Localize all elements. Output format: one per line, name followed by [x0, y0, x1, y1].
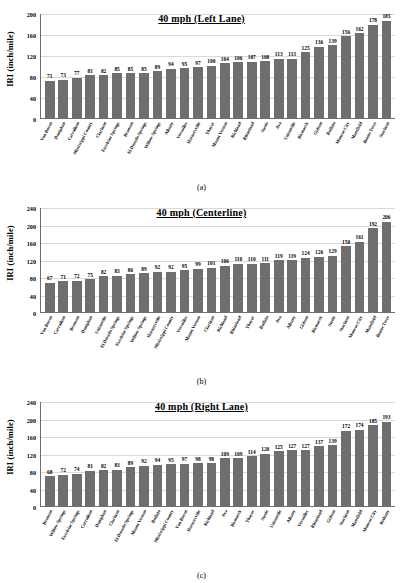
- bar[interactable]: [260, 454, 270, 507]
- bar[interactable]: [314, 47, 324, 118]
- bar[interactable]: [233, 264, 243, 312]
- bar[interactable]: [260, 263, 270, 312]
- bar-item[interactable]: 71: [56, 208, 69, 312]
- bar[interactable]: [287, 260, 297, 312]
- bar[interactable]: [126, 73, 136, 118]
- bar-item[interactable]: 125: [272, 402, 285, 506]
- bar[interactable]: [247, 456, 257, 506]
- bar[interactable]: [126, 274, 136, 312]
- bar-item[interactable]: 94: [164, 14, 177, 118]
- bar-item[interactable]: 156: [339, 14, 352, 118]
- bar-item[interactable]: 178: [366, 14, 379, 118]
- bar-item[interactable]: 137: [312, 402, 325, 506]
- bar-item[interactable]: 172: [339, 402, 352, 506]
- bar[interactable]: [247, 62, 257, 118]
- bar[interactable]: [99, 75, 109, 118]
- bar-item[interactable]: 106: [218, 208, 231, 312]
- bar-item[interactable]: 73: [56, 14, 69, 118]
- bar-item[interactable]: 82: [97, 402, 110, 506]
- bar[interactable]: [112, 73, 122, 118]
- bar[interactable]: [180, 68, 190, 118]
- bar-item[interactable]: 81: [83, 402, 96, 506]
- bar[interactable]: [166, 69, 176, 118]
- bar[interactable]: [112, 276, 122, 312]
- bar[interactable]: [233, 62, 243, 118]
- bar[interactable]: [99, 276, 109, 312]
- bar-item[interactable]: 127: [285, 402, 298, 506]
- bar-item[interactable]: 77: [70, 14, 83, 118]
- bar[interactable]: [85, 471, 95, 506]
- bar-item[interactable]: 95: [164, 402, 177, 506]
- bar[interactable]: [274, 260, 284, 312]
- bar[interactable]: [355, 430, 365, 506]
- bar[interactable]: [301, 450, 311, 506]
- bar-item[interactable]: 71: [43, 14, 56, 118]
- bar-item[interactable]: 98: [205, 402, 218, 506]
- bar[interactable]: [180, 270, 190, 312]
- bar[interactable]: [153, 465, 163, 506]
- bar-item[interactable]: 127: [299, 402, 312, 506]
- bar-item[interactable]: 126: [312, 208, 325, 312]
- bar-item[interactable]: 86: [124, 208, 137, 312]
- bar[interactable]: [72, 474, 82, 506]
- bar[interactable]: [220, 266, 230, 312]
- bar[interactable]: [314, 446, 324, 506]
- bar-item[interactable]: 110: [232, 208, 245, 312]
- bar-item[interactable]: 81: [83, 14, 96, 118]
- bar[interactable]: [301, 52, 311, 118]
- bar-item[interactable]: 72: [56, 402, 69, 506]
- bar[interactable]: [233, 458, 243, 506]
- bar[interactable]: [153, 272, 163, 312]
- bar-item[interactable]: 161: [353, 208, 366, 312]
- bar-item[interactable]: 89: [137, 208, 150, 312]
- bar[interactable]: [58, 80, 68, 118]
- bar[interactable]: [85, 75, 95, 118]
- bar-item[interactable]: 104: [218, 14, 231, 118]
- bar-item[interactable]: 193: [380, 402, 393, 506]
- bar[interactable]: [139, 466, 149, 506]
- bar-item[interactable]: 89: [151, 14, 164, 118]
- bar[interactable]: [166, 272, 176, 312]
- bar-item[interactable]: 97: [191, 14, 204, 118]
- bar-item[interactable]: 139: [326, 402, 339, 506]
- bar-item[interactable]: 82: [97, 14, 110, 118]
- bar[interactable]: [287, 450, 297, 506]
- bar[interactable]: [341, 246, 351, 312]
- bar[interactable]: [274, 59, 284, 118]
- bar-item[interactable]: 162: [353, 14, 366, 118]
- bar[interactable]: [193, 463, 203, 506]
- bar-item[interactable]: 85: [137, 14, 150, 118]
- bar[interactable]: [260, 61, 270, 118]
- bar[interactable]: [45, 476, 55, 506]
- bar[interactable]: [355, 242, 365, 312]
- bar-item[interactable]: 85: [110, 14, 123, 118]
- bar[interactable]: [85, 279, 95, 312]
- bar-item[interactable]: 83: [110, 208, 123, 312]
- bar-item[interactable]: 109: [232, 402, 245, 506]
- bar[interactable]: [368, 228, 378, 312]
- bar[interactable]: [166, 464, 176, 506]
- bar-item[interactable]: 110: [245, 208, 258, 312]
- bar[interactable]: [328, 45, 338, 118]
- bar-item[interactable]: 120: [259, 402, 272, 506]
- bar-item[interactable]: 185: [366, 402, 379, 506]
- bar[interactable]: [58, 281, 68, 312]
- bar-item[interactable]: 129: [326, 208, 339, 312]
- bar-item[interactable]: 99: [191, 208, 204, 312]
- bar-item[interactable]: 82: [97, 208, 110, 312]
- bar[interactable]: [328, 256, 338, 312]
- bar[interactable]: [72, 78, 82, 118]
- bar[interactable]: [301, 258, 311, 312]
- bar[interactable]: [328, 445, 338, 506]
- bar-item[interactable]: 192: [366, 208, 379, 312]
- bar-item[interactable]: 113: [272, 14, 285, 118]
- bar-item[interactable]: 98: [191, 402, 204, 506]
- bar-item[interactable]: 94: [151, 402, 164, 506]
- bar-item[interactable]: 119: [285, 208, 298, 312]
- bar[interactable]: [207, 66, 217, 119]
- bar[interactable]: [45, 81, 55, 118]
- bar[interactable]: [382, 222, 392, 312]
- bar-item[interactable]: 85: [124, 14, 137, 118]
- bar[interactable]: [382, 422, 392, 506]
- bar[interactable]: [72, 281, 82, 313]
